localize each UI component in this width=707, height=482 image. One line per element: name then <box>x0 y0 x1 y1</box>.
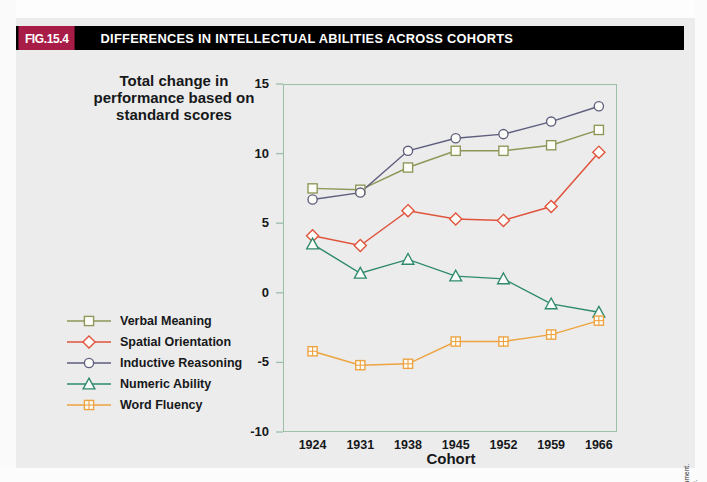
y-tick-label: 15 <box>227 76 269 91</box>
source-line-1: Source: K. Warner Schaie. (1994). The co… <box>683 464 691 482</box>
triangle-marker-icon <box>66 376 112 392</box>
page-margin-right <box>695 0 707 482</box>
y-tick-label: 0 <box>227 285 269 300</box>
x-axis-title: Cohort <box>361 450 541 467</box>
legend-item-numeric-ability[interactable]: Numeric Ability <box>66 373 276 394</box>
legend-item-inductive-reasoning[interactable]: Inductive Reasoning <box>66 352 276 373</box>
legend-item-label: Verbal Meaning <box>120 314 212 328</box>
y-tick-label: 10 <box>227 146 269 161</box>
chart-legend: Verbal MeaningSpatial OrientationInducti… <box>66 310 276 415</box>
axis-ticks <box>276 84 283 432</box>
figure-page: FIG.15.4 DIFFERENCES IN INTELLECTUAL ABI… <box>0 0 707 482</box>
crossed-square-marker-icon <box>66 397 112 413</box>
page-margin-bottom <box>0 468 707 482</box>
chart-container: Total change in performance based on sta… <box>16 50 684 468</box>
legend-item-label: Word Fluency <box>120 398 202 412</box>
figure-header-banner: FIG.15.4 DIFFERENCES IN INTELLECTUAL ABI… <box>16 26 684 50</box>
legend-item-verbal-meaning[interactable]: Verbal Meaning <box>66 310 276 331</box>
page-margin-top <box>0 0 707 18</box>
y-tick-label: -10 <box>227 424 269 439</box>
page-margin-left <box>0 0 16 482</box>
source-credit: Source: K. Warner Schaie. (1994). The co… <box>683 464 699 482</box>
legend-item-label: Spatial Orientation <box>120 335 231 349</box>
x-tick-label: 1966 <box>571 438 627 452</box>
legend-item-spatial-orientation[interactable]: Spatial Orientation <box>66 331 276 352</box>
circle-marker-icon <box>66 355 112 371</box>
figure-number-badge: FIG.15.4 <box>18 26 74 50</box>
figure-title: DIFFERENCES IN INTELLECTUAL ABILITIES AC… <box>89 26 514 50</box>
source-line-2: American Psychologist, 49, 304–313. Amer… <box>691 464 699 482</box>
diamond-marker-icon <box>66 334 112 350</box>
y-tick-label: 5 <box>227 215 269 230</box>
square-marker-icon <box>66 313 112 329</box>
series-line <box>313 152 599 245</box>
legend-item-label: Inductive Reasoning <box>120 356 242 370</box>
legend-item-label: Numeric Ability <box>120 377 211 391</box>
legend-item-word-fluency[interactable]: Word Fluency <box>66 394 276 415</box>
